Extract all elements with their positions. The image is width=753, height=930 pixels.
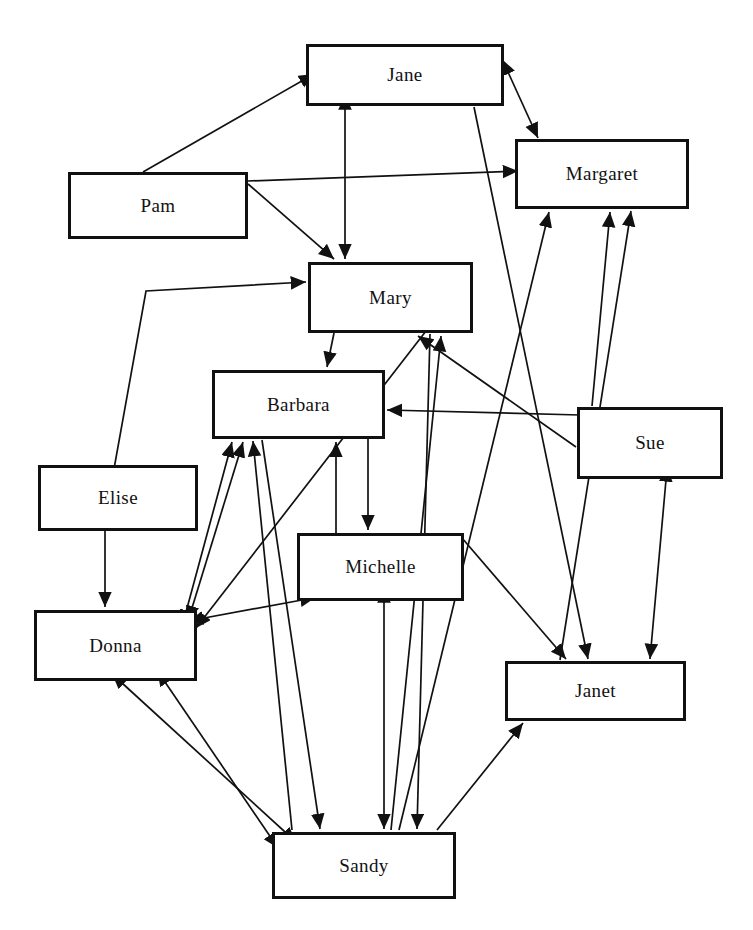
node-label: Jane (387, 64, 422, 86)
node-label: Barbara (267, 394, 330, 416)
edge-pam-to-jane (143, 74, 314, 172)
node-label: Michelle (345, 556, 416, 578)
sociogram-canvas: JaneMargaretPamMaryBarbaraSueEliseMichel… (0, 0, 753, 930)
node-label: Sue (635, 432, 665, 454)
node-label: Margaret (566, 163, 638, 185)
edge-sandy-to-barbara (253, 441, 292, 830)
node-michelle[interactable]: Michelle (297, 533, 464, 601)
edge-michelle-to-donna (188, 600, 302, 621)
node-pam[interactable]: Pam (68, 172, 248, 239)
edge-mary-to-barbara (327, 333, 334, 367)
node-mary[interactable]: Mary (308, 262, 473, 333)
node-label: Mary (369, 287, 412, 309)
node-sandy[interactable]: Sandy (272, 832, 456, 899)
node-elise[interactable]: Elise (38, 465, 198, 531)
edge-sue-to-mary (418, 336, 576, 447)
edge-jane-to-margaret (508, 72, 538, 138)
node-label: Janet (575, 680, 616, 702)
edge-sandy-to-janet (437, 723, 523, 830)
edge-donna-to-sandy (122, 683, 296, 842)
edge-pam-to-mary (248, 184, 334, 259)
node-label: Sandy (339, 855, 389, 877)
node-barbara[interactable]: Barbara (212, 370, 385, 439)
edge-barbara-to-sandy (262, 440, 320, 829)
edge-sue-to-margaret (592, 212, 610, 406)
edge-donna-to-barbara (192, 442, 243, 608)
node-label: Elise (98, 487, 138, 509)
node-jane[interactable]: Jane (306, 44, 504, 106)
edge-michelle-to-janet (462, 538, 566, 659)
edge-sue-to-barbara (387, 410, 580, 415)
node-margaret[interactable]: Margaret (515, 139, 689, 209)
node-donna[interactable]: Donna (34, 610, 197, 681)
edge-sue-to-janet (650, 480, 666, 659)
edge-donna-to-sandy (165, 682, 278, 848)
edge-pam-to-margaret (248, 171, 518, 181)
node-label: Donna (89, 635, 142, 657)
node-janet[interactable]: Janet (505, 661, 686, 721)
node-label: Pam (141, 195, 176, 217)
node-sue[interactable]: Sue (577, 407, 723, 479)
